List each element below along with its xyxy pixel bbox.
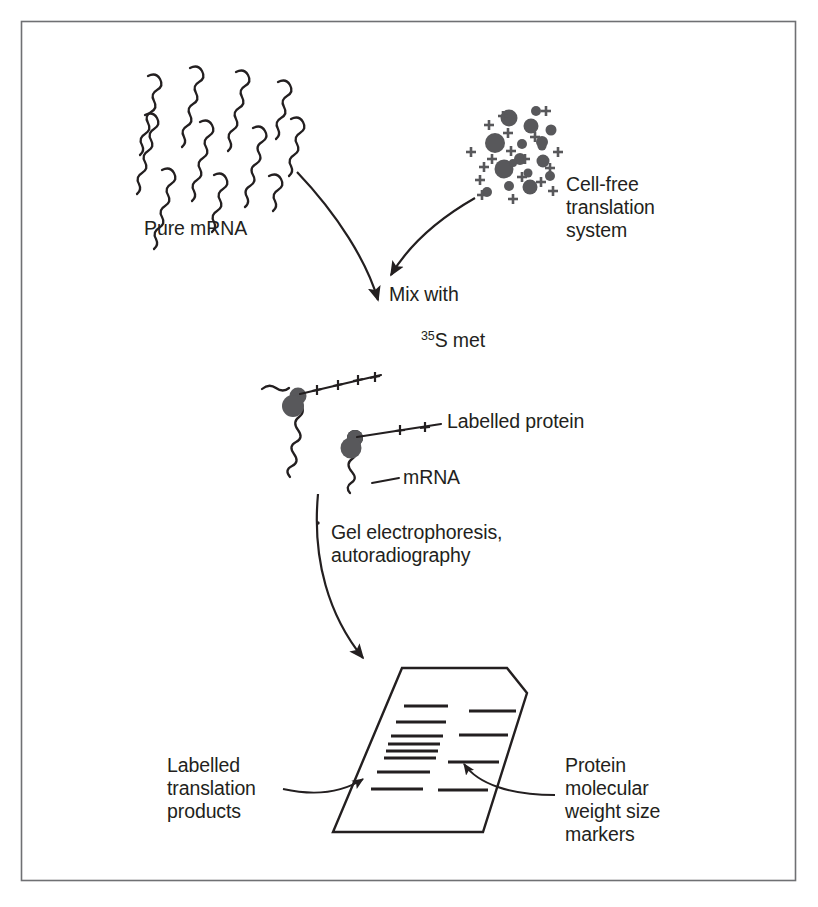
particle-dot-icon <box>523 180 538 195</box>
cell-free-system-label: Cell-free translation system <box>566 173 655 242</box>
particle-dot-icon <box>509 159 517 167</box>
markers-label: Protein molecular weight size markers <box>565 754 660 846</box>
wavy-mrna-strand-icon <box>245 127 266 207</box>
plus-charge-icon <box>420 422 430 432</box>
plus-charge-icon <box>484 120 494 130</box>
curved-arrow-icon <box>391 198 475 275</box>
wavy-mrna-strand-icon <box>192 121 213 201</box>
plus-charge-icon <box>370 372 380 382</box>
wavy-mrna-strand-icon <box>228 71 249 151</box>
plus-charge-icon <box>508 194 518 204</box>
figure-canvas <box>0 0 818 907</box>
wavy-mrna-strand-icon <box>269 175 282 211</box>
mrna-label: mRNA <box>403 466 460 489</box>
markers-line-1: Protein <box>565 754 660 777</box>
plus-charge-icon <box>395 425 405 435</box>
cell-free-particles-group <box>482 106 557 197</box>
particle-dot-icon <box>537 155 550 168</box>
plus-charge-icon <box>333 380 343 390</box>
mix-step-label: Mix with 35S met <box>389 283 485 375</box>
figure-root: Pure mRNA Cell-free translation system M… <box>0 0 818 907</box>
plus-charge-icon <box>466 147 476 157</box>
plus-charge-icon <box>506 146 516 156</box>
markers-line-2: molecular <box>565 777 660 800</box>
wavy-mrna-strand-icon <box>276 81 291 139</box>
sulfur-35-superscript: 35 <box>421 329 435 343</box>
particle-dot-icon <box>531 106 541 116</box>
plus-charge-icon <box>479 162 489 172</box>
labelled-protein-label: Labelled protein <box>447 410 584 433</box>
plus-charge-icon <box>487 154 497 164</box>
particle-dot-icon <box>485 133 505 153</box>
translation-products-label: Labelled translation products <box>167 754 256 823</box>
pure-mrna-label: Pure mRNA <box>144 217 247 240</box>
curved-arrow-icon <box>317 494 363 658</box>
plus-charge-icon <box>548 186 558 196</box>
markers-line-3: weight size <box>565 800 660 823</box>
particle-dot-icon <box>517 139 527 149</box>
wavy-mrna-strand-icon <box>140 75 161 155</box>
wavy-mrna-strand-icon <box>289 118 304 176</box>
markers-line-4: markers <box>565 823 660 846</box>
mix-line-1: Mix with <box>389 283 485 306</box>
plus-charge-icon <box>503 128 513 138</box>
gel-step-label: Gel electrophoresis, autoradiography <box>331 521 502 567</box>
plus-charge-icon <box>475 175 485 185</box>
plus-charge-icon <box>536 177 546 187</box>
mix-line-2: 35S met <box>389 306 485 375</box>
ribosome-icon <box>341 430 364 459</box>
particle-dot-icon <box>524 119 539 134</box>
plus-charge-icon <box>312 385 322 395</box>
translation-products-line-3: products <box>167 800 256 823</box>
translation-products-line-2: translation <box>167 777 256 800</box>
cell-free-line-2: translation <box>566 196 655 219</box>
plus-charge-icon <box>553 147 563 157</box>
sulfur-met-text: S met <box>435 329 485 351</box>
cell-free-line-3: system <box>566 219 655 242</box>
gel-step-line-2: autoradiography <box>331 544 502 567</box>
gel-step-line-1: Gel electrophoresis, <box>331 521 502 544</box>
cell-free-line-1: Cell-free <box>566 173 655 196</box>
mrna-leader-line <box>372 478 399 483</box>
particle-dot-icon <box>504 181 514 191</box>
wavy-mrna-strand-icon <box>182 67 203 147</box>
plus-charge-icon <box>541 106 551 116</box>
curved-arrow-icon <box>297 172 378 300</box>
particle-dot-icon <box>546 125 557 136</box>
stray-dot-icon <box>316 521 319 524</box>
translation-products-line-1: Labelled <box>167 754 256 777</box>
plus-charge-icon <box>353 375 363 385</box>
